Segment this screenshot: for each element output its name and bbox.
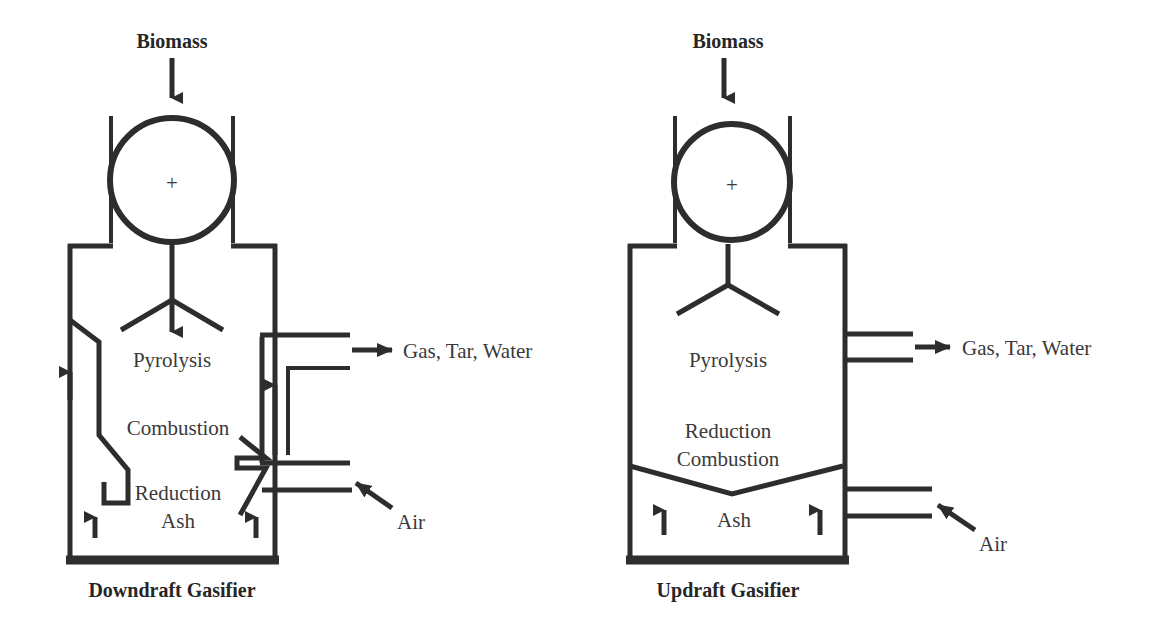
updraft-pyrolysis-label: Pyrolysis — [689, 348, 767, 372]
diagram-canvas: + — [0, 0, 1154, 625]
downdraft-reduction-label: Reduction — [135, 481, 222, 505]
updraft-ash-label: Ash — [717, 508, 751, 532]
air-inlet-arrow-shaft — [938, 505, 975, 530]
downdraft-left-throat-wall — [70, 320, 128, 503]
downdraft-gasifier-group: + — [66, 30, 532, 601]
air-inlet-arrow-shaft — [356, 483, 392, 508]
distributor-cone — [677, 285, 779, 314]
downdraft-combustion-label: Combustion — [127, 416, 230, 440]
updraft-hopper: + — [674, 116, 790, 243]
gasifier-diagram-figure: + — [0, 0, 1154, 625]
updraft-reduction-label: Reduction — [685, 419, 772, 443]
updraft-combustion-label: Combustion — [677, 447, 780, 471]
updraft-distributor — [677, 244, 779, 314]
downdraft-biomass-label: Biomass — [136, 30, 207, 52]
downdraft-pyrolysis-label: Pyrolysis — [133, 348, 211, 372]
hopper-center-mark: + — [166, 171, 178, 195]
downdraft-caption: Downdraft Gasifier — [88, 579, 255, 601]
left-throat-profile — [70, 320, 128, 503]
updraft-gas-outlet-duct — [843, 334, 950, 360]
downdraft-air-inlet-arrow — [356, 483, 392, 508]
downdraft-distributor — [121, 242, 223, 332]
updraft-gas-tar-water-label: Gas, Tar, Water — [962, 336, 1091, 360]
downdraft-gas-tar-water-label: Gas, Tar, Water — [403, 339, 532, 363]
updraft-biomass-label: Biomass — [692, 30, 763, 52]
updraft-gasifier-group: + — [626, 30, 1091, 602]
downdraft-hopper: + — [110, 116, 234, 243]
downdraft-ash-label: Ash — [161, 509, 195, 533]
hopper-center-mark: + — [726, 173, 738, 197]
downdraft-air-label: Air — [397, 510, 425, 534]
updraft-caption: Updraft Gasifier — [657, 579, 800, 602]
updraft-air-label: Air — [979, 532, 1007, 556]
updraft-air-inlet-duct — [843, 489, 975, 530]
